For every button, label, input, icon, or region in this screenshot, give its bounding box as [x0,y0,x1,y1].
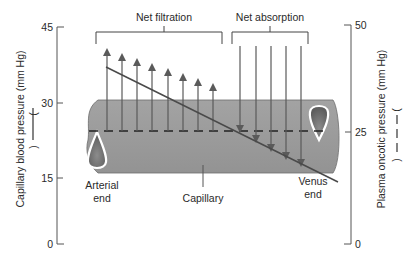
venus-end-label-line2: end [304,188,322,200]
arterial-end-label-line1: Arterial [85,179,118,191]
left-tick-15: 15 [41,172,53,184]
svg-text:): ) [27,145,39,149]
left-axis: 45 30 15 0 [41,21,64,250]
left-axis-label: Capillary blood pressure (mm Hg) [14,51,26,208]
capillary-diagram: Net filtration Net absorption Capillary … [0,0,409,261]
venus-end-label-line1: Venus [298,175,327,187]
left-tick-30: 30 [41,97,53,109]
left-legend-solid-line-icon: ( ) [27,108,39,149]
capillary-label: Capillary [183,192,225,204]
net-filtration-label: Net filtration [136,11,192,23]
svg-text:): ) [390,158,402,162]
net-absorption-label: Net absorption [236,11,304,23]
right-axis-label: Plasma oncotic pressure (mm Hg) [375,50,387,209]
arterial-end-label-line2: end [93,192,111,204]
right-tick-0: 0 [355,238,361,250]
net-filtration-bracket [96,26,222,44]
right-axis: 50 25 0 [344,19,367,250]
right-tick-25: 25 [355,126,367,138]
left-tick-45: 45 [41,21,53,33]
right-legend-dashed-line-icon: ( ) [390,108,402,162]
right-tick-50: 50 [355,19,367,31]
svg-text:(: ( [390,108,402,112]
net-absorption-bracket [232,26,308,44]
left-tick-0: 0 [47,238,53,250]
